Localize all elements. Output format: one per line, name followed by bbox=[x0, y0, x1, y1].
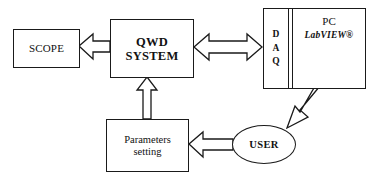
node-parameters-setting-label: Parameters setting bbox=[124, 134, 171, 158]
node-daq-pc-group[interactable]: D A Q PC LabVIEW® bbox=[263, 8, 366, 89]
node-qwd-system-label: QWD SYSTEM bbox=[125, 35, 178, 63]
node-pc-label: PC bbox=[293, 15, 365, 29]
arrow-params-to-qwd bbox=[137, 77, 157, 119]
node-scope-label: SCOPE bbox=[29, 42, 64, 54]
node-daq[interactable]: D A Q bbox=[264, 9, 289, 88]
node-parameters-setting[interactable]: Parameters setting bbox=[106, 119, 189, 172]
node-user[interactable]: USER bbox=[232, 125, 296, 164]
node-daq-label: D A Q bbox=[272, 28, 280, 69]
arrow-user-to-params bbox=[189, 132, 233, 157]
node-pc[interactable]: PC LabVIEW® bbox=[292, 9, 365, 88]
node-pc-software-label: LabVIEW® bbox=[293, 29, 365, 41]
node-qwd-system[interactable]: QWD SYSTEM bbox=[110, 19, 194, 78]
node-scope[interactable]: SCOPE bbox=[13, 29, 80, 68]
arrow-qwd-to-scope bbox=[79, 34, 110, 59]
block-diagram: SCOPE QWD SYSTEM D A Q PC LabVIEW® Param… bbox=[0, 0, 378, 185]
node-user-label: USER bbox=[249, 139, 279, 151]
arrow-qwd-daq-bidirectional bbox=[194, 34, 262, 60]
